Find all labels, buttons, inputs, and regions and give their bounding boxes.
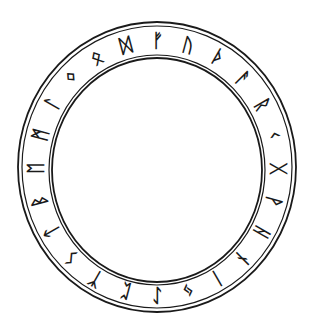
rune-raidho: ᚱ [250,94,275,115]
rune-naudiz: ᚾ [232,247,255,270]
rune-circle-figure: ᚠᚢᚦᚨᚱᚲᚷᚹᚺᚾᛁᛃᛇᛈᛉᛊᛏᛒᛖᛗᛚᛜᛟᛞ [0,0,313,332]
rune-laguz: ᛚ [39,94,64,115]
rune-berkanan: ᛒ [27,193,51,209]
rune-wunjo: ᚹ [263,193,287,209]
rune-kaunan: ᚲ [263,127,287,143]
rune-ansuz: ᚨ [232,66,255,89]
rune-dagaz: ᛞ [117,32,134,56]
rune-fehu: ᚠ [152,29,163,51]
rune-eihwaz: ᛇ [152,285,163,307]
rune-jera: ᛃ [180,280,196,304]
rune-thurisaz: ᚦ [208,45,229,70]
rune-gebo: ᚷ [268,162,290,175]
rune-ehwaz: ᛖ [24,163,46,174]
rune-othala: ᛟ [86,45,107,70]
rune-ingwaz: ᛜ [59,66,82,89]
outer-ring [18,22,296,312]
rune-band: ᚠᚢᚦᚨᚱᚲᚷᚹᚺᚾᛁᛃᛇᛈᛉᛊᛏᛒᛖᛗᛚᛜᛟᛞ [24,29,290,307]
inner-ring [49,55,265,285]
rune-tiwaz: ᛏ [39,222,64,243]
rune-circle-svg: ᚠᚢᚦᚨᚱᚲᚷᚹᚺᚾᛁᛃᛇᛈᛉᛊᛏᛒᛖᛗᛚᛜᛟᛞ [0,0,313,332]
rune-perthro: ᛈ [117,280,133,304]
rune-hagalaz: ᚺ [250,222,275,243]
rune-sowilo: ᛊ [59,247,82,270]
rune-uruz: ᚢ [180,32,196,56]
rune-mannaz: ᛗ [27,127,51,143]
